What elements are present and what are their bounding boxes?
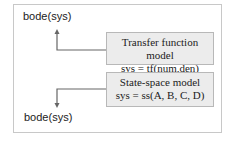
up-arrow-icon xyxy=(57,33,106,50)
up-arrowhead-icon xyxy=(55,29,60,34)
down-arrow-icon xyxy=(57,89,106,104)
down-arrowhead-icon xyxy=(55,103,60,108)
connector-arrows xyxy=(0,0,233,141)
